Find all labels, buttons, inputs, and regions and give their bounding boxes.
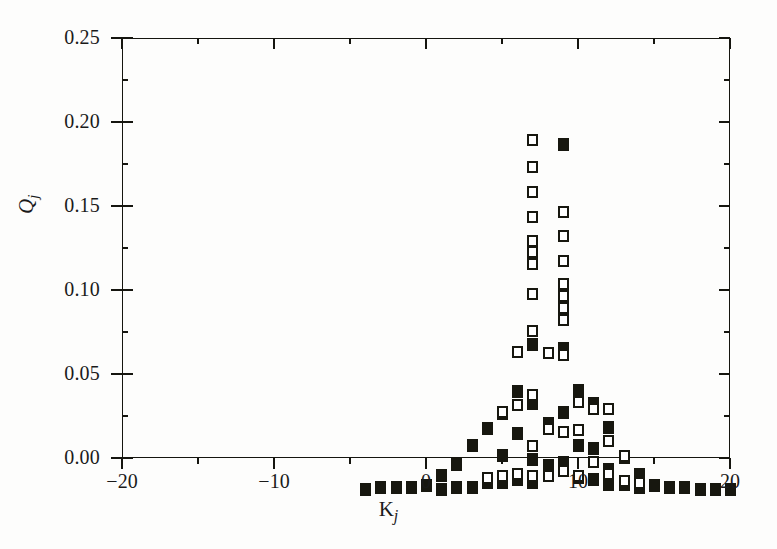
y-axis-major-tick [122, 373, 133, 375]
x-axis-tick-label: −20 [92, 470, 152, 492]
x-axis-minor-tick [653, 458, 655, 464]
x-axis-major-tick [425, 458, 427, 469]
figure-root: 0.000.050.100.150.200.25−20−1001020 Qj K… [0, 0, 777, 549]
y-axis-minor-tick [122, 79, 128, 81]
y-axis-title-subscript: j [25, 195, 41, 199]
data-point-open-square [527, 235, 538, 247]
data-point-open-square [527, 389, 538, 401]
x-axis-tick-label: 20 [700, 470, 760, 492]
x-axis-tick-label: 10 [548, 470, 608, 492]
data-point-filled-bar [467, 439, 478, 452]
x-axis-top-minor-tick [197, 38, 199, 44]
data-point-open-square [527, 134, 538, 146]
data-point-filled-bar [558, 138, 569, 151]
y-axis-major-tick [122, 121, 133, 123]
y-axis-tick-label: 0.00 [34, 447, 100, 467]
y-axis-right-major-tick [719, 289, 730, 291]
y-axis-tick-dash [111, 457, 122, 459]
data-point-filled-bar [558, 406, 569, 419]
data-point-open-square [634, 477, 645, 489]
data-point-open-square [527, 258, 538, 270]
data-point-open-square [558, 278, 569, 290]
data-point-open-square [497, 470, 508, 482]
x-axis-major-tick [577, 458, 579, 469]
plot-data-area [122, 38, 730, 458]
data-point-filled-bar [375, 481, 386, 494]
x-axis-top-major-tick [121, 38, 123, 49]
data-point-open-square [619, 450, 630, 462]
y-axis-major-tick [122, 457, 133, 459]
y-axis-right-minor-tick [724, 79, 730, 81]
x-axis-top-minor-tick [349, 38, 351, 44]
y-axis-right-minor-tick [724, 415, 730, 417]
data-point-open-square [558, 206, 569, 218]
y-axis-tick-dash [111, 205, 122, 207]
data-point-filled-bar [603, 421, 614, 434]
data-point-open-square [573, 396, 584, 408]
data-point-open-square [558, 426, 569, 438]
data-point-filled-bar [588, 442, 599, 455]
y-axis-tick-dash [111, 37, 122, 39]
data-point-open-square [512, 346, 523, 358]
data-point-open-square [558, 230, 569, 242]
x-axis-major-tick [121, 458, 123, 469]
x-axis-title-subscript: j [394, 507, 398, 524]
data-point-open-square [527, 325, 538, 337]
data-point-filled-bar [679, 481, 690, 494]
y-axis-major-tick [122, 205, 133, 207]
data-point-open-square [558, 290, 569, 302]
data-point-open-square [558, 255, 569, 267]
x-axis-top-major-tick [273, 38, 275, 49]
data-point-open-square [603, 403, 614, 415]
x-axis-minor-tick [349, 458, 351, 464]
y-axis-title-main: Q [14, 199, 38, 214]
data-point-filled-bar [573, 384, 584, 397]
data-point-open-square [558, 302, 569, 314]
y-axis-title: Qj [14, 195, 42, 214]
x-axis-top-major-tick [729, 38, 731, 49]
x-axis-tick-label: −10 [244, 470, 304, 492]
x-axis-top-minor-tick [653, 38, 655, 44]
data-point-open-square [543, 423, 554, 435]
data-point-open-square [527, 440, 538, 452]
y-axis-right-minor-tick [724, 163, 730, 165]
data-point-filled-bar [467, 481, 478, 494]
y-axis-major-tick [122, 37, 133, 39]
y-axis-tick-dash [111, 121, 122, 123]
y-axis-tick-label: 0.25 [34, 27, 100, 47]
data-point-filled-bar [527, 453, 538, 466]
data-point-open-square [603, 435, 614, 447]
x-axis-minor-tick [501, 458, 503, 464]
data-point-open-square [512, 468, 523, 480]
y-axis-minor-tick [122, 247, 128, 249]
data-point-open-square [558, 349, 569, 361]
y-axis-tick-label: 0.05 [34, 363, 100, 383]
y-axis-tick-label: 0.20 [34, 111, 100, 131]
data-point-open-square [527, 161, 538, 173]
x-axis-title: Kj [0, 497, 777, 525]
data-point-open-square [588, 456, 599, 468]
data-point-filled-bar [360, 483, 371, 496]
y-axis-right-major-tick [719, 373, 730, 375]
y-axis-minor-tick [122, 163, 128, 165]
data-point-open-square [543, 347, 554, 359]
data-point-open-square [619, 475, 630, 487]
y-axis-right-minor-tick [724, 331, 730, 333]
data-point-filled-bar [649, 479, 660, 492]
data-point-open-square [527, 288, 538, 300]
y-axis-minor-tick [122, 415, 128, 417]
data-point-open-square [573, 424, 584, 436]
x-axis-major-tick [273, 458, 275, 469]
y-axis-minor-tick [122, 331, 128, 333]
data-point-open-square [497, 406, 508, 418]
y-axis-right-minor-tick [724, 247, 730, 249]
data-point-open-square [482, 472, 493, 484]
y-axis-right-major-tick [719, 205, 730, 207]
x-axis-title-main: K [379, 497, 394, 521]
data-point-open-square [588, 403, 599, 415]
data-point-open-square [527, 246, 538, 258]
data-point-open-square [558, 314, 569, 326]
data-point-open-square [527, 470, 538, 482]
x-axis-top-minor-tick [501, 38, 503, 44]
x-axis-tick-label: 0 [396, 470, 456, 492]
